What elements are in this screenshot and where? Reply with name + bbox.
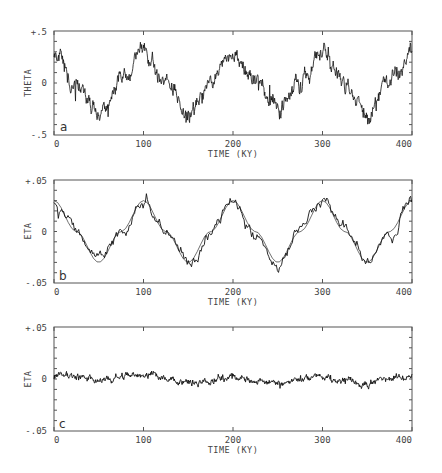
panel-a-frame — [54, 31, 412, 135]
panel-b-ytick-top: +.05 — [25, 176, 47, 186]
panel-a-xtick-100: 100 — [135, 139, 151, 149]
panel-a-ticks — [54, 31, 412, 135]
panel-b: +.05 0 -.05 ETA b 0 100 200 300 400 TIME… — [23, 176, 412, 307]
panel-b-letter: b — [59, 269, 67, 283]
panel-b-smooth-line — [54, 201, 412, 262]
panel-a-xtick-0: 0 — [54, 139, 59, 149]
panel-b-xtick-400: 400 — [396, 287, 412, 297]
panel-a-letter: a — [60, 120, 67, 134]
panel-c-ytick-top: +.05 — [25, 323, 47, 333]
panel-b-ytick-bot: -.05 — [25, 278, 47, 288]
panel-c-ylabel: ETA — [23, 371, 33, 388]
panel-b-ylabel: ETA — [23, 223, 33, 240]
panel-b-noisy-line — [54, 194, 412, 273]
panel-b-xtick-0: 0 — [54, 287, 59, 297]
panel-c-ytick-mid: 0 — [42, 374, 47, 384]
panel-c-xtick-300: 300 — [314, 435, 330, 445]
panel-a-ytick-top: +.5 — [31, 27, 47, 37]
panel-a-ytick-bot: -.5 — [31, 130, 47, 140]
panel-b-frame — [54, 180, 412, 283]
panel-b-ticks — [54, 180, 412, 283]
panel-c-xtick-400: 400 — [396, 435, 412, 445]
panel-a-xtick-400: 400 — [396, 139, 412, 149]
panel-a-xtick-300: 300 — [314, 139, 330, 149]
panel-c-noisy-line — [54, 371, 412, 389]
panel-c-xlabel: TIME (KY) — [208, 445, 259, 455]
panel-a-xtick-200: 200 — [225, 139, 241, 149]
panel-a: +.5 0 -.5 THETA a 0 100 200 300 400 TIME… — [23, 27, 412, 159]
panel-c: +.05 0 -.05 ETA c 0 100 200 300 400 TIME… — [23, 323, 412, 455]
panel-a-ylabel: THETA — [23, 69, 33, 97]
panel-b-xlabel: TIME (KY) — [208, 297, 259, 307]
panel-c-xtick-0: 0 — [54, 435, 59, 445]
panel-a-noisy-line — [54, 42, 412, 124]
panel-b-xtick-200: 200 — [225, 287, 241, 297]
panel-c-letter: c — [59, 417, 66, 431]
panel-c-xtick-200: 200 — [225, 435, 241, 445]
panel-c-xtick-100: 100 — [135, 435, 151, 445]
panel-a-xlabel: TIME (KY) — [208, 149, 259, 159]
panel-b-ytick-mid: 0 — [42, 227, 47, 237]
panel-b-xtick-100: 100 — [135, 287, 151, 297]
panel-a-ytick-mid: 0 — [42, 78, 47, 88]
panel-b-xtick-300: 300 — [314, 287, 330, 297]
panel-c-ytick-bot: -.05 — [25, 426, 47, 436]
figure-three-panel-timeseries: +.5 0 -.5 THETA a 0 100 200 300 400 TIME… — [0, 0, 442, 473]
